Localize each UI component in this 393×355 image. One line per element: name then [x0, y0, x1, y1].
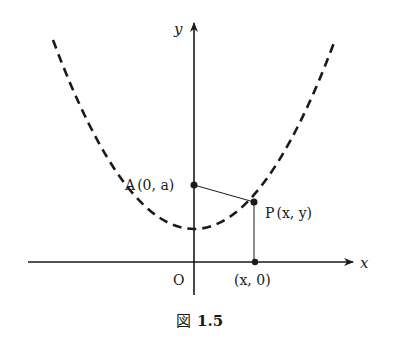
origin-label: O: [173, 272, 184, 288]
caption-number: 1.5: [197, 312, 223, 330]
point-P-name: P: [265, 205, 274, 221]
point-P-label: P(x, y): [265, 205, 312, 221]
y-axis-label: y: [173, 20, 183, 38]
foot-point-label: (x, 0): [234, 272, 271, 288]
point-P: [251, 199, 258, 206]
point-P-coords: (x, y): [276, 205, 312, 221]
point-foot: [252, 259, 258, 265]
point-A: [191, 182, 198, 189]
figure-canvas: y x O A(0, a) P(x, y) (x, 0) 図1.5: [0, 0, 393, 355]
caption-prefix: 図: [176, 312, 191, 330]
point-A-name: A: [124, 177, 136, 193]
segment-AP: [194, 185, 254, 202]
point-A-label: A(0, a): [124, 177, 174, 193]
point-A-coords: (0, a): [137, 177, 174, 193]
x-axis-label: x: [360, 254, 369, 272]
figure-caption: 図1.5: [176, 312, 223, 330]
